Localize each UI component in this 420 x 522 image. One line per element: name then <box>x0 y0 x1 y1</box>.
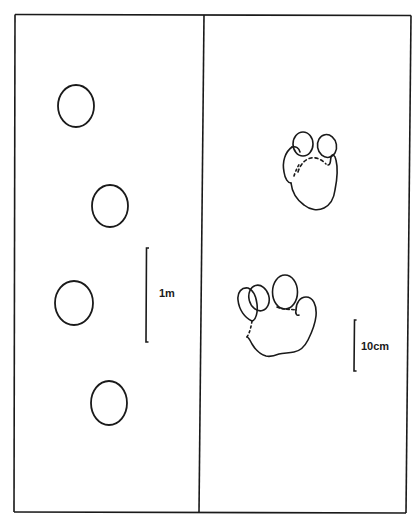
toe-pad-icon <box>283 147 292 183</box>
toe-pad-icon <box>293 132 313 156</box>
scale-bar-1m-label: 1m <box>159 287 175 299</box>
scale-bar-1m <box>146 248 149 342</box>
interdigital-dashed-line <box>277 307 296 310</box>
scale-bar-10cm <box>354 320 356 371</box>
frame-bottom <box>14 512 406 513</box>
toe-pad-icon <box>246 283 272 313</box>
trackway-figure: 1m <box>0 0 420 522</box>
scale-bar-10cm-label: 10cm <box>361 340 389 352</box>
frame-right <box>406 16 411 514</box>
upper-paw-print <box>283 132 338 210</box>
paw-detail-panel <box>238 132 356 371</box>
toe-pad-icon <box>273 275 298 309</box>
lower-paw-print <box>238 275 316 356</box>
toe-pad-icon <box>316 133 339 159</box>
heel-pad-icon <box>291 155 337 210</box>
interdigital-dashed-line <box>298 158 326 172</box>
footprint-circle-1 <box>58 85 94 127</box>
frame-left <box>14 15 15 513</box>
frame-top <box>15 15 411 16</box>
trackway-panel <box>55 85 149 425</box>
toe-pad-icon <box>238 288 257 321</box>
scale-bar-line <box>146 248 149 342</box>
toe-pad-icon <box>296 310 299 315</box>
interdigital-dashed-line <box>247 321 252 337</box>
footprint-circle-3 <box>55 281 93 325</box>
panel-divider <box>199 15 204 513</box>
scale-bar-line <box>354 320 356 371</box>
footprint-circle-4 <box>91 381 127 425</box>
frame <box>14 15 411 514</box>
footprint-circle-2 <box>92 185 128 227</box>
